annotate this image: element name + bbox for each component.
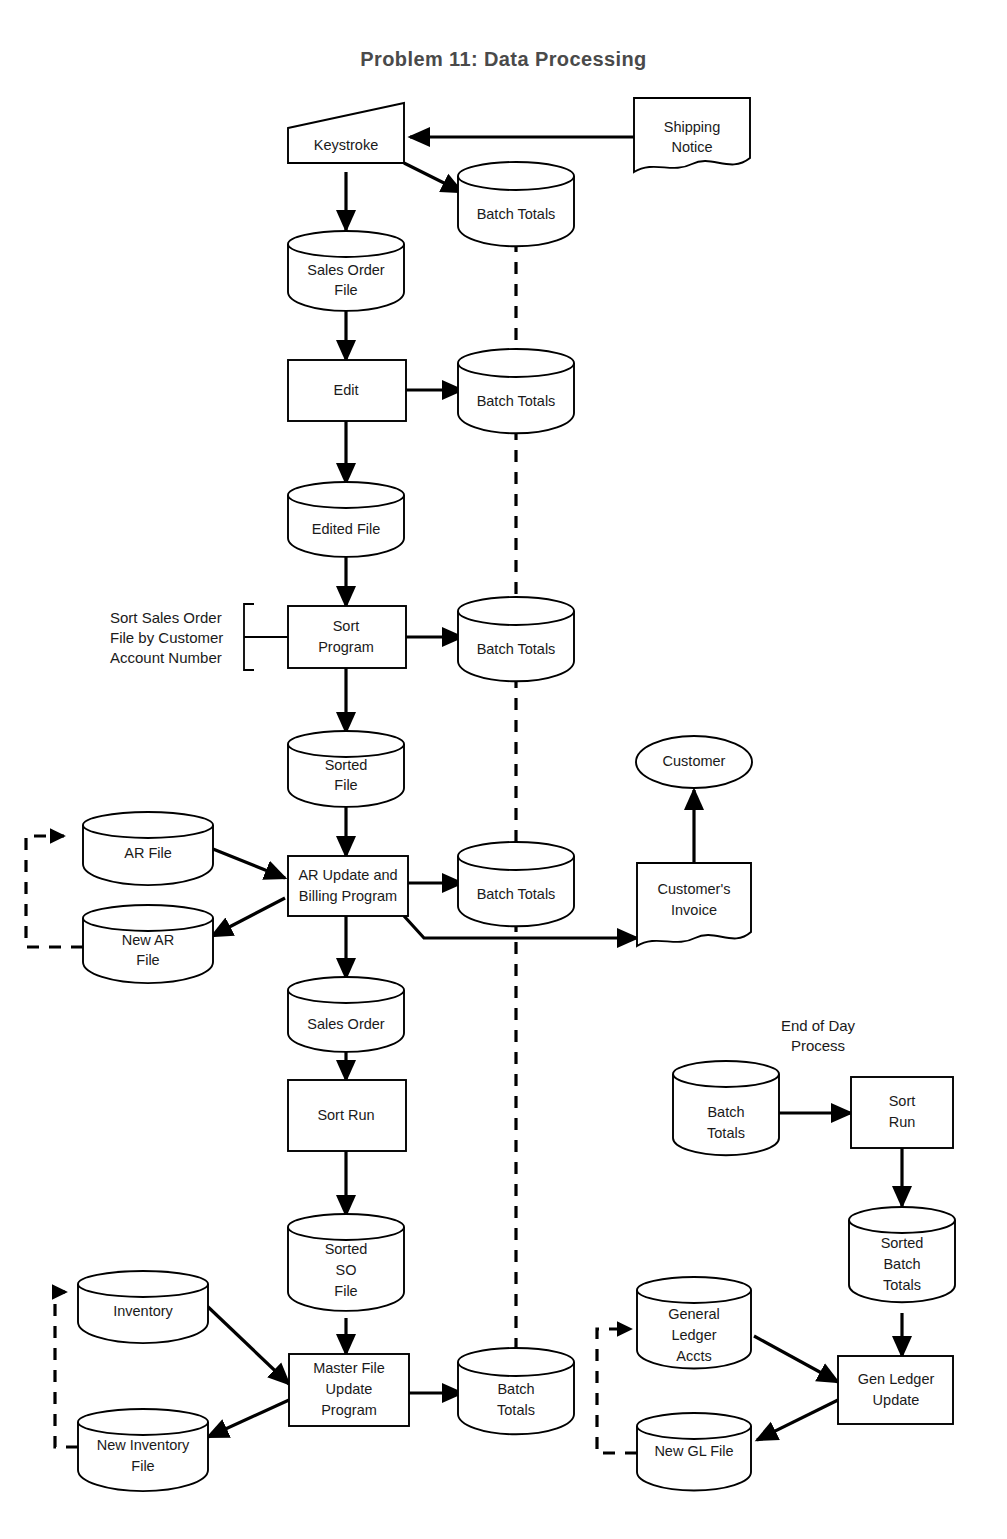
sort-note-line-1: Sort Sales Order xyxy=(110,609,222,626)
node-sorted-batch-label-1: Sorted xyxy=(881,1235,924,1251)
node-customers-invoice-label-1: Customer's xyxy=(658,881,731,897)
node-batch-totals-1-label: Batch Totals xyxy=(477,206,556,222)
edge-new-ar-file-feedback-loop xyxy=(26,836,83,947)
node-sort-run-left[interactable]: Sort Run xyxy=(288,1080,406,1151)
node-sorted-so-file-label-2: SO xyxy=(336,1262,357,1278)
eod-note-line-1: End of Day xyxy=(781,1017,856,1034)
edge-inventory-to-master-update xyxy=(205,1304,289,1384)
node-customers-invoice[interactable]: Customer's Invoice xyxy=(637,863,751,946)
node-batch-totals-3[interactable]: Batch Totals xyxy=(458,597,574,681)
node-keystroke-label: Keystroke xyxy=(314,137,378,153)
edge-new-gl-file-feedback-loop xyxy=(597,1329,637,1453)
edge-ar-update-to-new-ar-file xyxy=(212,898,285,936)
node-new-ar-file-label-1: New AR xyxy=(122,932,174,948)
node-sales-order[interactable]: Sales Order xyxy=(288,977,404,1052)
edge-gl-accts-to-gen-ledger-update xyxy=(754,1336,838,1382)
node-shipping-notice-label-2: Notice xyxy=(671,139,712,155)
node-batch-totals-eod-label-1: Batch xyxy=(707,1104,744,1120)
node-sorted-batch-label-2: Batch xyxy=(883,1256,920,1272)
node-sorted-batch-label-3: Totals xyxy=(883,1277,921,1293)
node-sorted-file[interactable]: Sorted File xyxy=(288,731,404,807)
node-edited-file-label: Edited File xyxy=(312,521,381,537)
node-batch-totals-5-label-1: Batch xyxy=(497,1381,534,1397)
node-gen-ledger-update[interactable]: Gen Ledger Update xyxy=(838,1356,953,1424)
node-gl-accts-label-1: General xyxy=(668,1306,720,1322)
node-customer-label: Customer xyxy=(663,753,726,769)
node-ar-update-label-1: AR Update and xyxy=(298,867,397,883)
data-processing-flowchart: Keystroke Shipping Notice Batch Totals S… xyxy=(0,0,1007,1539)
node-inventory-label: Inventory xyxy=(113,1303,173,1319)
node-batch-totals-1[interactable]: Batch Totals xyxy=(458,162,574,246)
node-batch-totals-2-label: Batch Totals xyxy=(477,393,556,409)
node-new-gl-file-label: New GL File xyxy=(654,1443,733,1459)
annotation-end-of-day-process: End of Day Process xyxy=(781,1017,856,1054)
node-sort-program-label-1: Sort xyxy=(333,618,360,634)
node-customer[interactable]: Customer xyxy=(636,736,752,788)
edge-ar-file-to-ar-update xyxy=(213,849,285,878)
node-sorted-file-label-1: Sorted xyxy=(325,757,368,773)
node-sort-run-right[interactable]: Sort Run xyxy=(851,1077,953,1148)
node-master-update-label-1: Master File xyxy=(313,1360,385,1376)
node-sort-run-left-label: Sort Run xyxy=(317,1107,374,1123)
node-inventory[interactable]: Inventory xyxy=(78,1271,208,1343)
node-sort-program-label-2: Program xyxy=(318,639,374,655)
sort-note-line-2: File by Customer xyxy=(110,629,223,646)
node-new-ar-file-label-2: File xyxy=(136,952,159,968)
node-sales-order-file-label-1: Sales Order xyxy=(307,262,385,278)
edge-gen-ledger-update-to-new-gl-file xyxy=(757,1400,838,1440)
node-new-inventory-label-1: New Inventory xyxy=(97,1437,190,1453)
node-gen-ledger-update-label-1: Gen Ledger xyxy=(858,1371,935,1387)
node-sales-order-file[interactable]: Sales Order File xyxy=(288,231,404,311)
node-sorted-so-file[interactable]: Sorted SO File xyxy=(288,1214,404,1311)
node-sorted-so-file-label-3: File xyxy=(334,1283,357,1299)
node-new-inventory-file[interactable]: New Inventory File xyxy=(78,1409,208,1491)
node-sales-order-label: Sales Order xyxy=(307,1016,385,1032)
node-ar-file[interactable]: AR File xyxy=(83,812,213,885)
edge-new-inventory-feedback-loop xyxy=(55,1292,78,1447)
node-master-update-label-3: Program xyxy=(321,1402,377,1418)
node-general-ledger-accts[interactable]: General Ledger Accts xyxy=(637,1277,751,1369)
node-customers-invoice-label-2: Invoice xyxy=(671,902,717,918)
node-sales-order-file-label-2: File xyxy=(334,282,357,298)
node-ar-update-billing-program[interactable]: AR Update and Billing Program xyxy=(288,856,408,916)
node-sort-run-right-label-1: Sort xyxy=(889,1093,916,1109)
node-sort-run-right-label-2: Run xyxy=(889,1114,916,1130)
node-batch-totals-4[interactable]: Batch Totals xyxy=(458,842,574,926)
node-batch-totals-4-label: Batch Totals xyxy=(477,886,556,902)
node-sorted-batch-totals[interactable]: Sorted Batch Totals xyxy=(849,1207,955,1302)
node-gl-accts-label-3: Accts xyxy=(676,1348,711,1364)
node-master-file-update-program[interactable]: Master File Update Program xyxy=(289,1354,409,1426)
sort-note-line-3: Account Number xyxy=(110,649,222,666)
node-new-ar-file[interactable]: New AR File xyxy=(83,905,213,983)
node-new-gl-file[interactable]: New GL File xyxy=(637,1413,751,1491)
edge-keystroke-to-batch-totals-1 xyxy=(404,163,462,192)
node-ar-update-label-2: Billing Program xyxy=(299,888,397,904)
node-sorted-so-file-label-1: Sorted xyxy=(325,1241,368,1257)
eod-note-line-2: Process xyxy=(791,1037,845,1054)
node-new-inventory-label-2: File xyxy=(131,1458,154,1474)
node-shipping-notice-label-1: Shipping xyxy=(664,119,720,135)
node-gl-accts-label-2: Ledger xyxy=(671,1327,716,1343)
edge-master-update-to-new-inventory xyxy=(208,1400,289,1437)
node-batch-totals-end-of-day[interactable]: Batch Totals xyxy=(673,1061,779,1155)
node-ar-file-label: AR File xyxy=(124,845,172,861)
node-sorted-file-label-2: File xyxy=(334,777,357,793)
node-batch-totals-5[interactable]: Batch Totals xyxy=(458,1348,574,1434)
node-batch-totals-3-label: Batch Totals xyxy=(477,641,556,657)
connector-layer xyxy=(26,137,902,1453)
node-batch-totals-eod-label-2: Totals xyxy=(707,1125,745,1141)
node-sort-program[interactable]: Sort Program xyxy=(288,606,406,668)
node-edit[interactable]: Edit xyxy=(288,360,406,421)
node-keystroke[interactable]: Keystroke xyxy=(288,103,404,163)
node-gen-ledger-update-label-2: Update xyxy=(873,1392,920,1408)
node-batch-totals-5-label-2: Totals xyxy=(497,1402,535,1418)
node-shipping-notice[interactable]: Shipping Notice xyxy=(634,98,750,172)
node-edit-label: Edit xyxy=(334,382,359,398)
node-edited-file[interactable]: Edited File xyxy=(288,482,404,557)
node-master-update-label-2: Update xyxy=(326,1381,373,1397)
annotation-sort-note: Sort Sales Order File by Customer Accoun… xyxy=(110,609,223,666)
node-batch-totals-2[interactable]: Batch Totals xyxy=(458,349,574,433)
